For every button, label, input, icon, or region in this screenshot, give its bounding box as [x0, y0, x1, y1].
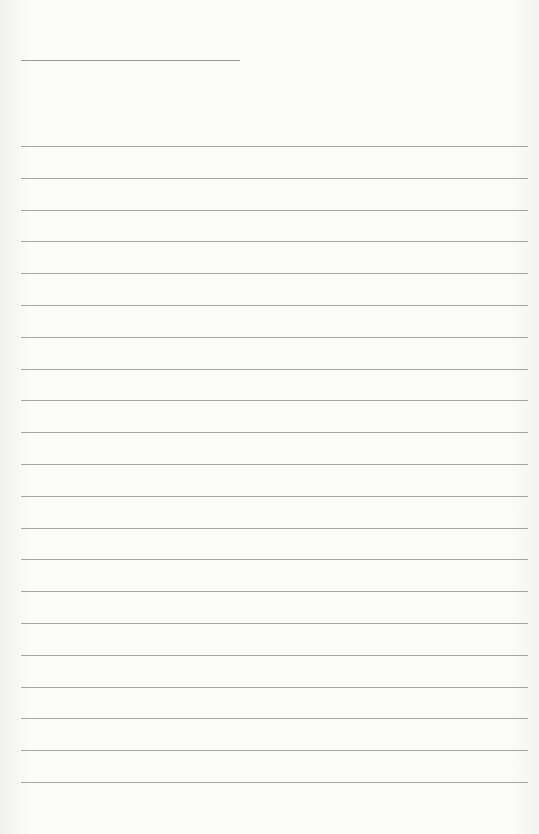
- lined-paper-page: [0, 0, 539, 834]
- ruled-line: [21, 496, 528, 497]
- ruled-line: [21, 591, 528, 592]
- ruled-line: [21, 528, 528, 529]
- ruled-line: [21, 464, 528, 465]
- name-line: [21, 60, 240, 61]
- ruled-line: [21, 210, 528, 211]
- ruled-line: [21, 432, 528, 433]
- ruled-line: [21, 559, 528, 560]
- ruled-line: [21, 273, 528, 274]
- ruled-line: [21, 146, 528, 147]
- ruled-line: [21, 718, 528, 719]
- ruled-line: [21, 782, 528, 783]
- ruled-line: [21, 655, 528, 656]
- ruled-line: [21, 687, 528, 688]
- ruled-line: [21, 623, 528, 624]
- ruled-line: [21, 400, 528, 401]
- ruled-line: [21, 305, 528, 306]
- ruled-line: [21, 178, 528, 179]
- ruled-line: [21, 369, 528, 370]
- ruled-line: [21, 750, 528, 751]
- ruled-line: [21, 337, 528, 338]
- ruled-line: [21, 241, 528, 242]
